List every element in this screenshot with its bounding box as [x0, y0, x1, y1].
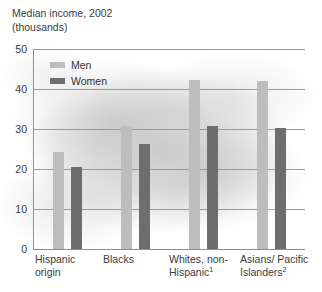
median-income-bar-chart: Median income, 2002 (thousands) 50 40 30…	[0, 0, 322, 292]
gridline-0: 0	[33, 249, 305, 250]
category-label-line2-wrap: Islanders2	[240, 266, 308, 279]
category-label-hispanic-origin: Hispanic origin	[35, 253, 75, 279]
category-label-line1: Blacks	[103, 253, 134, 266]
legend-label-men: Men	[71, 60, 91, 71]
bar-women-blacks	[139, 144, 150, 249]
category-axis-labels: Hispanic origin Blacks Whites, non- Hisp…	[33, 253, 322, 291]
y-tick-label-10: 10	[15, 204, 27, 214]
y-tick-label-40: 40	[15, 84, 27, 94]
category-label-line2: Islanders	[240, 266, 283, 278]
y-tick-label-50: 50	[15, 44, 27, 54]
category-label-line1: Asians/ Pacific	[240, 253, 308, 266]
category-label-whites-non-hispanic: Whites, non- Hispanic1	[169, 253, 228, 279]
category-footnote-marker: 2	[283, 266, 287, 273]
bar-men-asians-pacific-islanders	[257, 81, 268, 249]
legend-swatch-men-icon	[50, 62, 65, 68]
category-label-blacks: Blacks	[103, 253, 134, 266]
y-tick-label-0: 0	[21, 244, 27, 254]
category-label-asians-pacific-islanders: Asians/ Pacific Islanders2	[240, 253, 308, 279]
bar-women-asians-pacific-islanders	[275, 128, 286, 249]
chart-title: Median income, 2002	[12, 6, 262, 20]
category-label-line2: origin	[35, 266, 75, 279]
legend-item-women: Women	[50, 74, 107, 88]
bar-men-hispanic-origin	[53, 152, 64, 249]
chart-header: Median income, 2002 (thousands)	[12, 6, 262, 34]
chart-legend: Men Women	[50, 58, 107, 90]
y-tick-label-20: 20	[15, 164, 27, 174]
bar-men-whites-non-hispanic	[189, 80, 200, 249]
chart-subtitle: (thousands)	[12, 20, 262, 34]
bar-women-whites-non-hispanic	[207, 126, 218, 249]
category-label-line1: Whites, non-	[169, 253, 228, 266]
category-footnote-marker: 1	[209, 266, 213, 273]
legend-item-men: Men	[50, 58, 107, 72]
bar-men-blacks	[121, 126, 132, 249]
category-label-line2-wrap: Hispanic1	[169, 266, 228, 279]
bar-women-hispanic-origin	[71, 167, 82, 249]
category-label-line2: Hispanic	[169, 266, 209, 278]
y-tick-label-30: 30	[15, 124, 27, 134]
legend-label-women: Women	[71, 76, 107, 87]
category-label-line1: Hispanic	[35, 253, 75, 266]
legend-swatch-women-icon	[50, 78, 65, 84]
